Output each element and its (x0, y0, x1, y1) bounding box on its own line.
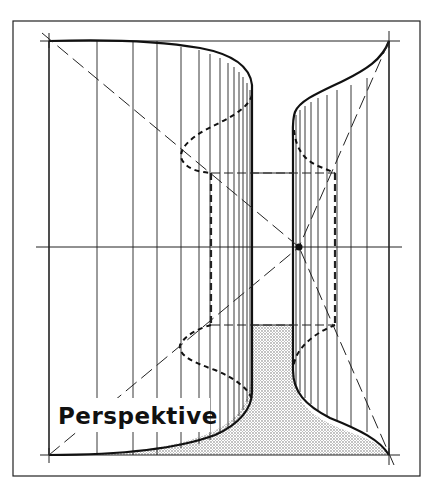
vanishing-point (296, 244, 303, 251)
perspective-diagram: Perspektive (0, 0, 433, 488)
right-wall-hatching (296, 41, 389, 455)
diagonal-top-left (42, 33, 299, 247)
stippled-floor (49, 325, 389, 455)
right-wall-outline (293, 41, 389, 455)
inner-back-rectangle (211, 173, 335, 325)
diagonal-top-right (299, 41, 389, 247)
right-wall-hidden-curve-lower (293, 325, 335, 370)
left-wall-hatching (49, 41, 250, 455)
left-wall-hidden-curve-lower (180, 325, 252, 400)
perspektive-label: Perspektive (58, 403, 218, 429)
left-wall-hidden-curve-upper (181, 95, 252, 173)
left-wall-outline (49, 40, 252, 455)
